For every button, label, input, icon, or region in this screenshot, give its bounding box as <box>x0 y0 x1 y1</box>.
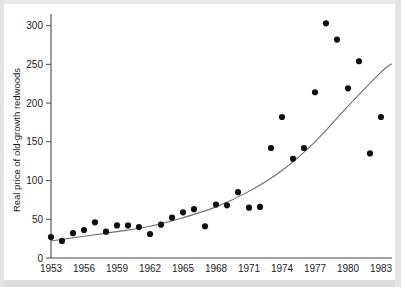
data-point <box>169 215 175 221</box>
data-point <box>114 222 120 228</box>
data-point <box>147 231 153 237</box>
x-axis-group: 1953195619591962196519681971197419771980… <box>40 258 393 274</box>
y-tick-label: 250 <box>26 59 43 70</box>
y-tick-label: 150 <box>26 136 43 147</box>
data-point <box>345 85 351 91</box>
data-point <box>334 36 340 42</box>
data-point <box>257 204 263 210</box>
data-point <box>356 58 362 64</box>
x-tick-label: 1959 <box>106 263 129 274</box>
y-axis-group: 050100150200250300 Real price of old-gro… <box>11 14 51 264</box>
data-point <box>125 222 131 228</box>
x-tick-label-group: 1953195619591962196519681971197419771980… <box>40 263 393 274</box>
chart-figure: 050100150200250300 Real price of old-gro… <box>0 0 401 287</box>
y-tick-label: 200 <box>26 98 43 109</box>
y-tick-label: 50 <box>32 214 44 225</box>
data-point <box>191 206 197 212</box>
x-tick-label: 1965 <box>172 263 195 274</box>
data-point <box>48 234 54 240</box>
data-point <box>213 201 219 207</box>
y-tick-group <box>46 26 51 258</box>
y-tick-label: 100 <box>26 175 43 186</box>
y-tick-label-group: 050100150200250300 <box>26 20 43 263</box>
data-point <box>224 202 230 208</box>
x-tick-label: 1968 <box>205 263 228 274</box>
data-point <box>180 209 186 215</box>
x-tick-label: 1983 <box>370 263 393 274</box>
data-point <box>312 89 318 95</box>
x-tick-label: 1956 <box>73 263 96 274</box>
data-point <box>81 227 87 233</box>
x-tick-label: 1953 <box>40 263 63 274</box>
data-point-group <box>48 20 384 244</box>
data-point <box>235 189 241 195</box>
y-axis-title: Real price of old-growth redwoods <box>11 68 22 212</box>
trend-curve <box>51 64 392 241</box>
data-point <box>202 223 208 229</box>
data-point <box>158 222 164 228</box>
x-tick-label: 1977 <box>304 263 327 274</box>
data-point <box>290 156 296 162</box>
y-tick-label: 0 <box>37 253 43 264</box>
data-point <box>59 238 65 244</box>
data-point <box>103 229 109 235</box>
x-tick-label: 1980 <box>337 263 360 274</box>
data-point <box>378 114 384 120</box>
data-point <box>136 224 142 230</box>
data-point <box>323 20 329 26</box>
data-point <box>367 150 373 156</box>
y-tick-label: 300 <box>26 20 43 31</box>
scatter-plot: 050100150200250300 Real price of old-gro… <box>0 0 401 287</box>
data-point <box>301 145 307 151</box>
x-tick-label: 1974 <box>271 263 294 274</box>
data-point <box>246 205 252 211</box>
data-point <box>268 145 274 151</box>
x-tick-label: 1971 <box>238 263 261 274</box>
data-point <box>92 219 98 225</box>
data-point <box>279 114 285 120</box>
data-point <box>70 230 76 236</box>
x-tick-label: 1962 <box>139 263 162 274</box>
